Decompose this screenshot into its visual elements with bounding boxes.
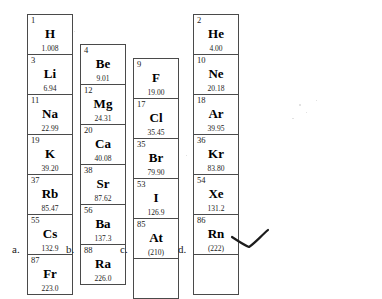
element-cell[interactable]: 17 Cl 35.45 — [133, 98, 179, 139]
atomic-mass: 22.99 — [28, 124, 72, 133]
element-symbol: He — [194, 26, 238, 41]
atomic-mass: 226.0 — [81, 274, 125, 283]
atomic-number: 3 — [31, 55, 35, 65]
element-cell[interactable]: 37 Rb 85.47 — [27, 174, 73, 215]
element-cell[interactable]: 35 Br 79.90 — [133, 138, 179, 179]
element-cell[interactable]: 20 Ca 40.08 — [80, 124, 126, 165]
scan-speckle — [186, 155, 187, 156]
element-cell[interactable]: 18 Ar 39.95 — [193, 94, 239, 135]
element-symbol: K — [28, 146, 72, 161]
atomic-number: 86 — [197, 215, 206, 225]
scan-speckle — [299, 104, 301, 106]
element-symbol: H — [28, 26, 72, 41]
atomic-number: 35 — [137, 139, 146, 149]
element-column-c: 9 F 19.00 17 Cl 35.45 35 Br 79.90 53 I 1… — [133, 58, 179, 299]
atomic-mass: 87.62 — [81, 194, 125, 203]
atomic-number: 54 — [197, 175, 206, 185]
panel-label-a: a. — [12, 243, 20, 255]
atomic-number: 12 — [84, 85, 93, 95]
atomic-mass: 20.18 — [194, 84, 238, 93]
element-cell[interactable]: 87 Fr 223.0 — [27, 254, 73, 295]
atomic-number: 4 — [84, 45, 88, 55]
panel-label-b: b. — [66, 243, 74, 255]
element-cell[interactable]: 12 Mg 24.31 — [80, 84, 126, 125]
element-symbol: Ca — [81, 136, 125, 151]
atomic-mass: (210) — [134, 248, 178, 257]
atomic-number: 56 — [84, 205, 93, 215]
atomic-mass: 131.2 — [194, 204, 238, 213]
element-symbol: Kr — [194, 146, 238, 161]
panel-label-d: d. — [178, 243, 186, 255]
atomic-number: 17 — [137, 99, 146, 109]
atomic-number: 53 — [137, 179, 146, 189]
atomic-mass: 39.20 — [28, 164, 72, 173]
atomic-number: 9 — [137, 59, 141, 69]
element-symbol: F — [134, 70, 178, 85]
atomic-mass: 19.00 — [134, 88, 178, 97]
panel-label-c: c. — [120, 243, 128, 255]
element-cell[interactable]: 53 I 126.9 — [133, 178, 179, 219]
element-cell[interactable]: 3 Li 6.94 — [27, 54, 73, 95]
atomic-number: 2 — [197, 15, 201, 25]
element-cell[interactable]: 4 Be 9.01 — [80, 44, 126, 85]
element-cell[interactable]: 38 Sr 87.62 — [80, 164, 126, 205]
scan-speckle — [306, 112, 307, 113]
element-symbol: Cl — [134, 110, 178, 125]
atomic-number: 10 — [197, 55, 206, 65]
atomic-mass: 79.90 — [134, 168, 178, 177]
element-symbol: Ar — [194, 106, 238, 121]
atomic-number: 1 — [31, 15, 35, 25]
atomic-number: 85 — [137, 219, 146, 229]
element-symbol: Rb — [28, 186, 72, 201]
element-cell[interactable]: 9 F 19.00 — [133, 58, 179, 99]
scan-speckle — [292, 118, 294, 119]
element-symbol: Li — [28, 66, 72, 81]
atomic-number: 55 — [31, 215, 40, 225]
atomic-mass: 223.0 — [28, 284, 72, 293]
atomic-number: 88 — [84, 245, 93, 255]
element-cell-empty[interactable] — [133, 258, 179, 299]
element-cell[interactable]: 85 At (210) — [133, 218, 179, 259]
atomic-mass: 35.45 — [134, 128, 178, 137]
element-symbol: Fr — [28, 266, 72, 281]
atomic-mass: 24.31 — [81, 114, 125, 123]
element-cell[interactable]: 2 He 4.00 — [193, 14, 239, 55]
element-cell[interactable]: 56 Ba 137.3 — [80, 204, 126, 245]
handwritten-check-icon — [230, 228, 274, 256]
element-cell[interactable]: 10 Ne 20.18 — [193, 54, 239, 95]
atomic-mass: 1.008 — [28, 44, 72, 53]
element-symbol: Cs — [28, 226, 72, 241]
element-symbol: Ra — [81, 256, 125, 271]
atomic-number: 19 — [31, 135, 40, 145]
atomic-mass: 6.94 — [28, 84, 72, 93]
element-cell[interactable]: 54 Xe 131.2 — [193, 174, 239, 215]
element-symbol: Xe — [194, 186, 238, 201]
atomic-number: 18 — [197, 95, 206, 105]
scan-speckle — [316, 100, 317, 101]
atomic-mass: 4.00 — [194, 44, 238, 53]
element-cell[interactable]: 19 K 39.20 — [27, 134, 73, 175]
element-symbol: Sr — [81, 176, 125, 191]
element-cell-empty[interactable] — [193, 254, 239, 295]
element-symbol: I — [134, 190, 178, 205]
element-cell[interactable]: 36 Kr 83.80 — [193, 134, 239, 175]
element-symbol: Ne — [194, 66, 238, 81]
atomic-mass: 9.01 — [81, 74, 125, 83]
atomic-number: 37 — [31, 175, 40, 185]
atomic-mass: 40.08 — [81, 154, 125, 163]
element-cell[interactable]: 11 Na 22.99 — [27, 94, 73, 135]
atomic-number: 20 — [84, 125, 93, 135]
scan-speckle — [74, 31, 75, 32]
element-symbol: Br — [134, 150, 178, 165]
element-symbol: Ba — [81, 216, 125, 231]
element-symbol: At — [134, 230, 178, 245]
atomic-number: 38 — [84, 165, 93, 175]
atomic-mass: 83.80 — [194, 164, 238, 173]
atomic-mass: 85.47 — [28, 204, 72, 213]
atomic-mass: 39.95 — [194, 124, 238, 133]
atomic-number: 36 — [197, 135, 206, 145]
element-symbol: Be — [81, 56, 125, 71]
atomic-mass: 126.9 — [134, 208, 178, 217]
element-cell[interactable]: 1 H 1.008 — [27, 14, 73, 55]
atomic-mass: 137.3 — [81, 234, 125, 243]
